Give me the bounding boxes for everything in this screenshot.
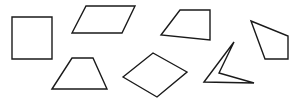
square-shape [12, 17, 52, 59]
shapes-canvas [0, 0, 296, 105]
trapezoid-shape [52, 58, 107, 89]
concave-quadrilateral-shape [204, 42, 254, 83]
rhombus-shape [123, 53, 187, 97]
quadrilateral-top-shape [161, 10, 210, 40]
parallelogram-shape [72, 6, 135, 33]
quadrilateral-right-shape [251, 21, 288, 59]
